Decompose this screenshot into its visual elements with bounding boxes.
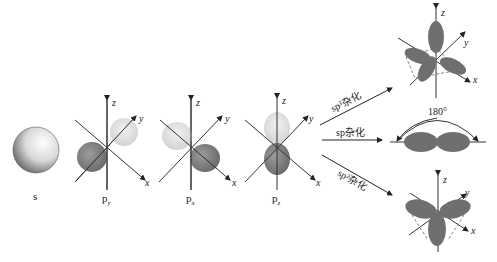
sp2-x-axis-label: x [470, 225, 476, 236]
sp2-z-axis-label: z [442, 174, 447, 185]
sp-label: sp杂化 [336, 126, 365, 138]
px-x-axis-label: x [231, 177, 237, 188]
hybridization-diagram: s z y x py z y x px z y x pz [0, 0, 497, 262]
sp3-z-axis-label: z [440, 7, 445, 18]
px-y-axis-label: y [224, 113, 230, 124]
py-x-axis-label: x [144, 177, 150, 188]
sp3-y-axis-label: y [463, 37, 469, 48]
px-orbital [159, 100, 230, 190]
py-label: py [102, 192, 112, 207]
px-z-axis-label: z [195, 97, 200, 108]
pz-orbital [245, 98, 315, 190]
pz-label: pz [272, 192, 281, 207]
sp-angle-label: 180° [428, 106, 447, 117]
sp3-x-axis-label: x [472, 74, 478, 85]
py-orbital [75, 100, 145, 190]
px-label: px [186, 192, 196, 207]
sp2-y-axis-label: y [464, 187, 470, 198]
pz-x-axis-label: x [315, 177, 321, 188]
py-z-axis-label: z [111, 97, 116, 108]
sp-hybrid [390, 118, 486, 152]
s-orbital [13, 127, 59, 173]
pz-z-axis-label: z [281, 95, 286, 106]
s-label: s [33, 190, 37, 202]
py-y-axis-label: y [138, 113, 144, 124]
sp2-arrow [322, 155, 392, 195]
sp2-hybrid [403, 175, 473, 252]
sp2-label: sp²杂化 [336, 166, 370, 192]
sp3-hybrid [398, 8, 470, 98]
pz-y-axis-label: y [308, 113, 314, 124]
sp3-label: sp³杂化 [328, 89, 362, 114]
